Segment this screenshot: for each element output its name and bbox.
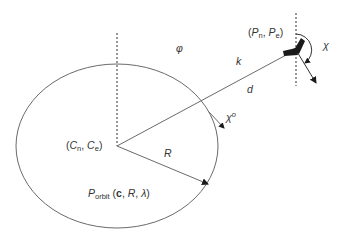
chi-label: χ (322, 39, 329, 51)
d-label: d (247, 83, 254, 95)
paren-close: ) (280, 26, 284, 38)
paren-close: ) (99, 139, 103, 151)
orbit-path-label: Porbit (c, R, λ) (88, 187, 150, 201)
orbit-geometry-diagram: φ k d R χ χo (Pn, Pe) (Cn, Ce) Porbit (c… (0, 0, 346, 238)
aircraft-heading-arrow (296, 50, 316, 83)
phi-label: φ (176, 42, 183, 54)
orbit-subscript: orbit (95, 192, 111, 201)
chi-orbit-sup: o (232, 110, 236, 119)
orbit-tangent-course-arrow (209, 112, 224, 128)
center-to-aircraft-line (117, 54, 288, 146)
aircraft-icon (283, 38, 305, 56)
aircraft-position-label: (Pn, Pe) (248, 26, 283, 40)
chi-orbit-label: χo (225, 110, 236, 123)
pe-symbol: P (269, 26, 276, 38)
orbit-p-symbol: P (88, 187, 95, 199)
R-label: R (164, 147, 172, 159)
k-label: k (236, 55, 242, 67)
args-close: ) (146, 187, 150, 199)
pn-symbol: P (252, 26, 259, 38)
center-label: (Cn, Ce) (66, 139, 102, 153)
radius-arrow (117, 146, 208, 184)
